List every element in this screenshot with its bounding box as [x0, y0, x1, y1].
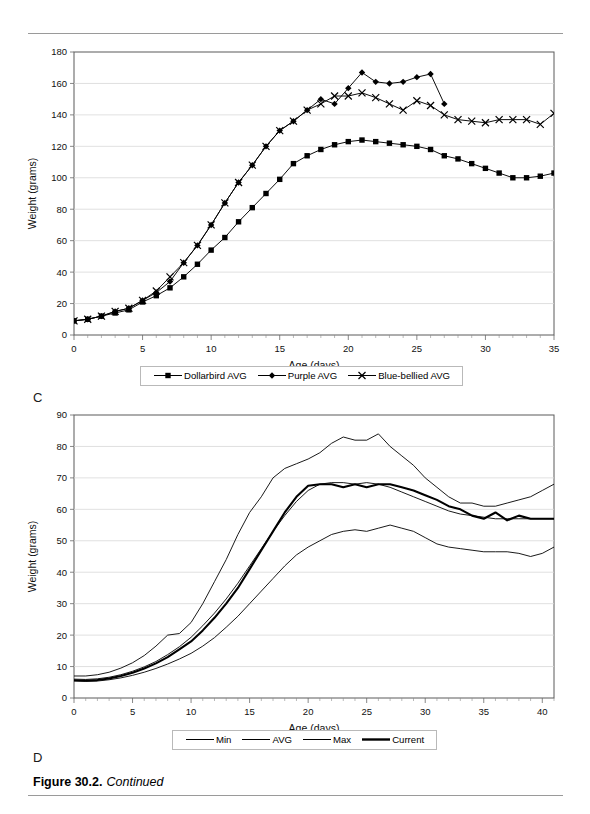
plot-frame	[74, 52, 554, 335]
x-tick-label: 25	[361, 706, 372, 717]
y-tick-label: 30	[56, 598, 67, 609]
legend-panel-d: MinAVGMaxCurrent	[172, 730, 437, 750]
x-tick-label: 0	[71, 706, 76, 717]
chart-panel-c: 02040608010012014016018005101520253035Ag…	[22, 42, 568, 387]
y-tick-label: 10	[56, 661, 67, 672]
legend-marker-line	[361, 734, 391, 745]
y-axis-title: Weight (grams)	[26, 521, 38, 593]
x-tick-label: 35	[478, 706, 489, 717]
x-axis: 0510152025303540	[71, 698, 554, 717]
x-axis: 05101520253035	[71, 335, 559, 354]
x-tick-label: 20	[343, 343, 354, 354]
legend-marker-line	[241, 734, 271, 745]
legend-marker-line	[302, 734, 332, 745]
legend-marker-square	[153, 370, 183, 381]
figure-page: 02040608010012014016018005101520253035Ag…	[0, 0, 590, 814]
plot-frame	[74, 415, 554, 698]
y-axis-title: Weight (grams)	[26, 158, 38, 230]
panel-label-c: C	[33, 390, 43, 405]
x-tick-label: 25	[412, 343, 423, 354]
y-axis: 0102030405060708090	[56, 409, 74, 703]
y-tick-label: 180	[51, 46, 67, 57]
legend-label: Max	[332, 734, 351, 745]
legend-item-blue-bellied-avg[interactable]: Blue-bellied AVG	[347, 369, 450, 381]
x-tick-label: 15	[274, 343, 285, 354]
x-tick-label: 10	[186, 706, 197, 717]
y-tick-label: 80	[56, 441, 67, 452]
x-tick-label: 20	[303, 706, 314, 717]
legend-item-dollarbird-avg[interactable]: Dollarbird AVG	[153, 369, 247, 381]
y-tick-label: 50	[56, 535, 67, 546]
chart-panel-d: 01020304050607080900510152025303540Age (…	[22, 405, 568, 750]
legend-marker-line	[185, 734, 215, 745]
x-tick-label: 15	[244, 706, 255, 717]
y-tick-label: 80	[56, 204, 67, 215]
legend-item-current[interactable]: Current	[361, 733, 424, 745]
y-tick-label: 0	[62, 692, 67, 703]
legend-label: Purple AVG	[287, 370, 337, 381]
x-tick-label: 5	[140, 343, 145, 354]
x-tick-label: 5	[130, 706, 135, 717]
y-tick-label: 60	[56, 504, 67, 515]
legend-marker-diamond	[257, 370, 287, 381]
legend-item-avg[interactable]: AVG	[241, 733, 292, 745]
y-tick-label: 140	[51, 109, 67, 120]
legend-label: Blue-bellied AVG	[377, 370, 450, 381]
y-tick-label: 70	[56, 472, 67, 483]
page-rule-bottom	[28, 795, 563, 796]
figure-caption: Figure 30.2.Continued	[33, 775, 163, 789]
y-tick-label: 120	[51, 141, 67, 152]
legend-label: Dollarbird AVG	[183, 370, 247, 381]
legend-label: Current	[391, 734, 424, 745]
legend-label: Min	[215, 734, 231, 745]
figure-continued: Continued	[102, 775, 163, 789]
x-tick-label: 30	[480, 343, 491, 354]
y-axis: 020406080100120140160180	[51, 46, 74, 340]
y-tick-label: 20	[56, 630, 67, 641]
chart-svg-bottom: 01020304050607080900510152025303540Age (…	[22, 405, 568, 750]
x-tick-label: 35	[549, 343, 560, 354]
y-tick-label: 20	[56, 298, 67, 309]
legend-item-purple-avg[interactable]: Purple AVG	[257, 369, 337, 381]
legend-marker-cross	[347, 370, 377, 381]
legend-label: AVG	[271, 734, 292, 745]
y-tick-label: 60	[56, 235, 67, 246]
y-tick-label: 100	[51, 172, 67, 183]
legend-panel-c: Dollarbird AVGPurple AVGBlue-bellied AVG	[140, 366, 463, 386]
y-tick-label: 160	[51, 78, 67, 89]
y-tick-label: 40	[56, 567, 67, 578]
x-tick-label: 10	[206, 343, 217, 354]
y-tick-label: 0	[62, 329, 67, 340]
legend-item-min[interactable]: Min	[185, 733, 231, 745]
x-tick-label: 0	[71, 343, 76, 354]
y-tick-label: 40	[56, 267, 67, 278]
x-tick-label: 30	[420, 706, 431, 717]
x-tick-label: 40	[537, 706, 548, 717]
figure-number: Figure 30.2.	[33, 775, 102, 789]
page-rule-top	[28, 33, 563, 34]
legend-item-max[interactable]: Max	[302, 733, 351, 745]
chart-svg-top: 02040608010012014016018005101520253035Ag…	[22, 42, 568, 387]
panel-label-d: D	[33, 750, 43, 765]
y-tick-label: 90	[56, 409, 67, 420]
